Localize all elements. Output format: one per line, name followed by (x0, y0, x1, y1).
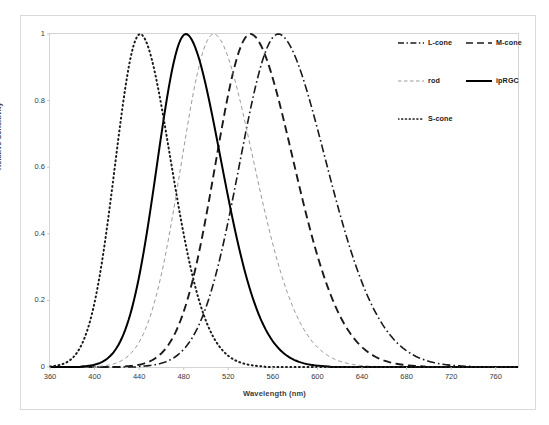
y-tick-label: 0 (19, 362, 45, 371)
x-tick-label: 480 (164, 372, 204, 381)
x-tick-label: 560 (253, 372, 293, 381)
y-axis-title: Relative Sensitivity (0, 102, 3, 170)
legend-label-iprgc: ipRGC (496, 76, 519, 85)
legend-label-rod: rod (428, 76, 440, 85)
legend-label-s-cone: S-cone (428, 114, 453, 123)
legend-entry-m-cone[interactable]: M-cone (466, 38, 522, 47)
y-tick-label: 0.8 (19, 96, 45, 105)
legend-swatch-l-cone (398, 39, 424, 47)
legend-label-l-cone: L-cone (428, 38, 452, 47)
y-tick-label: 0.4 (19, 229, 45, 238)
x-tick-label: 400 (75, 372, 115, 381)
legend-entry-iprgc[interactable]: ipRGC (466, 76, 519, 85)
legend-swatch-s-cone (398, 115, 424, 123)
legend-entry-rod[interactable]: rod (398, 76, 440, 85)
x-tick-label: 600 (297, 372, 337, 381)
x-tick-label: 720 (431, 372, 471, 381)
legend-swatch-iprgc (466, 77, 492, 85)
x-axis-title: Wavelength (nm) (0, 389, 549, 398)
chart-legend: L-cone M-cone rod ipRGC S-cone (398, 38, 526, 136)
x-tick-label: 640 (342, 372, 382, 381)
x-tick-label: 520 (208, 372, 248, 381)
legend-swatch-rod (398, 77, 424, 85)
x-tick-label: 760 (476, 372, 516, 381)
x-tick-label: 440 (119, 372, 159, 381)
legend-entry-s-cone[interactable]: S-cone (398, 114, 453, 123)
y-tick-label: 0.2 (19, 295, 45, 304)
x-tick-label: 680 (387, 372, 427, 381)
legend-label-m-cone: M-cone (496, 38, 522, 47)
legend-swatch-m-cone (466, 39, 492, 47)
legend-entry-l-cone[interactable]: L-cone (398, 38, 452, 47)
spectral-sensitivity-chart: Relative Sensitivity Wavelength (nm) 00.… (0, 0, 549, 425)
y-tick-label: 1 (19, 29, 45, 38)
x-tick-label: 360 (30, 372, 70, 381)
y-tick-label: 0.6 (19, 162, 45, 171)
